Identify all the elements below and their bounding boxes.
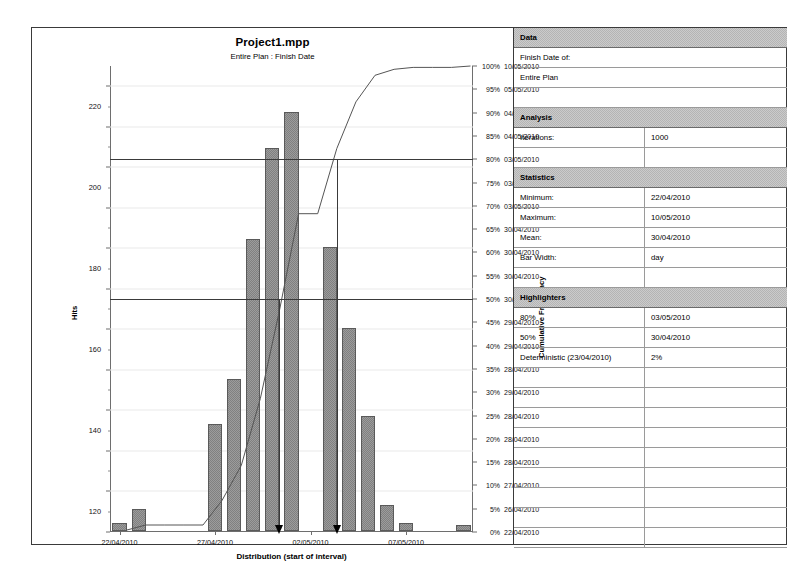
table-row[interactable]: [514, 428, 787, 448]
y-tick-label: 200: [89, 183, 101, 192]
table-row-label: [514, 408, 645, 427]
table-row-label: Entire Plan: [514, 73, 787, 82]
table-row[interactable]: Maximum:10/05/2010: [514, 208, 787, 228]
table-section-header-label: Highlighters: [514, 293, 787, 302]
table-row[interactable]: [514, 528, 787, 548]
table-row[interactable]: [514, 448, 787, 468]
table-row[interactable]: Entire Plan: [514, 68, 787, 88]
table-row-value: 30/04/2010: [645, 233, 787, 242]
table-row-label: [514, 468, 645, 487]
table-row-value: 03/05/2010: [645, 313, 787, 322]
y2-tick-percent: 100%: [480, 63, 500, 70]
table-section-header: Data: [514, 28, 787, 48]
y2-tick-percent: 40%: [480, 342, 500, 349]
table-row[interactable]: Deterministic (23/04/2010)2%: [514, 348, 787, 368]
table-row-label: Bar Width:: [514, 248, 645, 267]
table-row-label: [514, 528, 645, 547]
table-section-header-label: Statistics: [514, 173, 787, 182]
table-row-label: [514, 488, 645, 507]
y2-tick-percent: 25%: [480, 412, 500, 419]
table-row-label: Mean:: [514, 228, 645, 247]
highlighter-drop-line: [337, 159, 338, 532]
table-row-label: [514, 448, 645, 467]
table-row[interactable]: Bar Width:day: [514, 248, 787, 268]
table-row[interactable]: [514, 88, 787, 108]
table-row-value: 22/04/2010: [645, 193, 787, 202]
y-tick-label: 220: [89, 102, 101, 111]
y2-tick-percent: 35%: [480, 365, 500, 372]
chart-panel: Project1.mpp Entire Plan : Finish Date H…: [32, 28, 514, 544]
x-tick-label: 02/05/2010: [293, 538, 329, 547]
table-row[interactable]: [514, 488, 787, 508]
plot-inner: 020406080100120140160180200220 100%10/05…: [110, 66, 473, 532]
x-tick-label: 07/05/2010: [388, 538, 424, 547]
table-section-header: Statistics: [514, 168, 787, 188]
table-row-value: 1000: [645, 133, 787, 142]
y-tick-label: 140: [89, 426, 101, 435]
table-row-label: Minimum:: [514, 188, 645, 207]
table-row[interactable]: [514, 468, 787, 488]
y2-tick-percent: 5%: [480, 505, 500, 512]
table-row-value: day: [645, 253, 787, 262]
y2-tick-percent: 50%: [480, 296, 500, 303]
table-row[interactable]: [514, 388, 787, 408]
y2-tick-percent: 80%: [480, 156, 500, 163]
table-row-label: Deterministic (23/04/2010): [514, 348, 645, 367]
y2-tick-percent: 60%: [480, 249, 500, 256]
y2-tick-percent: 55%: [480, 272, 500, 279]
y2-tick-percent: 15%: [480, 459, 500, 466]
table-row-label: 80%: [514, 308, 645, 327]
statistics-table: DataFinish Date of:Entire PlanAnalysisIt…: [514, 28, 787, 544]
table-row-label: [514, 148, 645, 167]
highlighter-line: [110, 299, 473, 300]
highlighter-line: [110, 159, 473, 160]
table-row[interactable]: Minimum:22/04/2010: [514, 188, 787, 208]
y-tick-label: 120: [89, 507, 101, 516]
chart-title: Project1.mpp: [32, 36, 513, 48]
table-row-label: 50%: [514, 328, 645, 347]
table-row-label: [514, 268, 645, 287]
table-row-label: Finish Date of:: [514, 53, 787, 62]
chart-subtitle: Entire Plan : Finish Date: [32, 52, 513, 61]
y-tick-label: 160: [89, 345, 101, 354]
table-row[interactable]: Mean:30/04/2010: [514, 228, 787, 248]
table-row[interactable]: Finish Date of:: [514, 48, 787, 68]
table-row-label: Iterations:: [514, 128, 645, 147]
plot-area: 020406080100120140160180200220 100%10/05…: [110, 66, 473, 532]
table-row-label: [514, 368, 645, 387]
y2-tick-percent: 70%: [480, 202, 500, 209]
x-tick-label: 27/04/2010: [197, 538, 233, 547]
y2-tick-percent: 65%: [480, 226, 500, 233]
y-axis-title: Hits: [70, 306, 79, 320]
percentile-marker-arrow: [333, 525, 341, 534]
y2-tick-percent: 10%: [480, 482, 500, 489]
table-row-value: 10/05/2010: [645, 213, 787, 222]
y2-tick-percent: 30%: [480, 389, 500, 396]
y-tick-label: 180: [89, 264, 101, 273]
table-row[interactable]: 80%03/05/2010: [514, 308, 787, 328]
y2-tick-percent: 20%: [480, 435, 500, 442]
table-row[interactable]: [514, 368, 787, 388]
table-row[interactable]: [514, 408, 787, 428]
y2-tick-percent: 90%: [480, 109, 500, 116]
table-row-label: Maximum:: [514, 208, 645, 227]
y2-tick-percent: 95%: [480, 86, 500, 93]
table-row[interactable]: [514, 268, 787, 288]
y2-tick-percent: 75%: [480, 179, 500, 186]
table-row-label: [514, 428, 645, 447]
report-frame: Project1.mpp Entire Plan : Finish Date H…: [31, 27, 787, 545]
percentile-marker-arrow: [275, 525, 283, 534]
x-tick-label: 22/04/2010: [102, 538, 138, 547]
table-row[interactable]: [514, 148, 787, 168]
table-section-header-label: Data: [514, 33, 787, 42]
highlighter-drop-line: [279, 299, 280, 532]
table-row[interactable]: [514, 508, 787, 528]
table-row-label: [514, 388, 645, 407]
y2-tick-percent: 85%: [480, 132, 500, 139]
table-row-value: 30/04/2010: [645, 333, 787, 342]
table-row-label: [514, 508, 645, 527]
table-row[interactable]: Iterations:1000: [514, 128, 787, 148]
table-row-value: 2%: [645, 353, 787, 362]
table-row[interactable]: 50%30/04/2010: [514, 328, 787, 348]
y2-tick-percent: 0%: [480, 529, 500, 536]
